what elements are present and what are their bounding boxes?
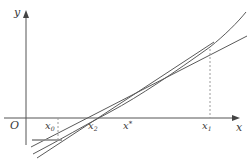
newton-method-diagram: O x y x0 x2 x* x1 xyxy=(0,0,250,160)
y-axis-arrow xyxy=(23,10,29,18)
xstar-base: x xyxy=(123,120,129,131)
x0-subscript: 0 xyxy=(51,125,55,132)
xstar-superscript: * xyxy=(129,120,133,128)
x1-subscript: 1 xyxy=(208,125,212,132)
x1-base: x xyxy=(202,120,208,131)
function-curve xyxy=(33,12,246,154)
origin-label: O xyxy=(10,120,19,131)
x-axis-label: x xyxy=(236,122,242,133)
tangent-line xyxy=(37,42,214,158)
x2-base: x xyxy=(88,120,94,131)
x2-subscript: 2 xyxy=(94,125,98,132)
x2-label: x2 xyxy=(88,121,98,131)
x1-label: x1 xyxy=(202,121,212,131)
xstar-label: x* xyxy=(123,121,132,131)
x0-label: x0 xyxy=(45,121,55,131)
y-axis-label: y xyxy=(14,7,20,18)
x0-base: x xyxy=(45,120,51,131)
diagram-canvas xyxy=(0,0,250,160)
